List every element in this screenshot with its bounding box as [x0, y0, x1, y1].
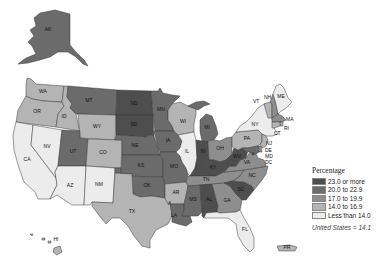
- legend-item: 17.0 to 19.9: [312, 194, 384, 203]
- svg-text:IL: IL: [185, 148, 189, 154]
- svg-text:NH: NH: [264, 94, 272, 100]
- svg-text:MO: MO: [170, 163, 178, 169]
- svg-text:HI: HI: [54, 236, 59, 242]
- svg-text:PA: PA: [244, 135, 251, 141]
- svg-text:NM: NM: [95, 181, 103, 187]
- svg-text:VA: VA: [244, 159, 251, 165]
- svg-text:DC: DC: [265, 159, 273, 165]
- svg-text:TX: TX: [129, 208, 136, 214]
- legend-item: Less than 14.0: [312, 211, 384, 220]
- legend-swatch: [312, 186, 326, 194]
- svg-text:NV: NV: [44, 143, 52, 149]
- state-ak[interactable]: [18, 10, 88, 66]
- svg-text:CO: CO: [99, 149, 107, 155]
- svg-text:GA: GA: [223, 197, 231, 203]
- svg-text:KS: KS: [138, 162, 145, 168]
- legend-swatch: [312, 178, 326, 186]
- svg-text:TN: TN: [203, 176, 210, 182]
- legend-label: 23.0 or more: [328, 178, 365, 185]
- legend-item: 23.0 or more: [312, 177, 384, 186]
- svg-text:NY: NY: [252, 121, 260, 127]
- svg-text:ID: ID: [62, 113, 67, 119]
- svg-text:AL: AL: [206, 196, 212, 202]
- svg-text:AZ: AZ: [67, 182, 73, 188]
- svg-text:OH: OH: [216, 145, 224, 151]
- legend-label: 20.0 to 22.9: [328, 186, 362, 193]
- national-average-note: United States = 14.1: [312, 224, 384, 231]
- legend-swatch: [312, 203, 326, 211]
- svg-text:SD: SD: [131, 121, 138, 127]
- svg-text:CA: CA: [24, 156, 32, 162]
- states-layer: [13, 10, 297, 255]
- svg-text:WV: WV: [233, 153, 242, 159]
- svg-text:IA: IA: [166, 137, 171, 143]
- svg-text:MA: MA: [286, 116, 294, 122]
- svg-text:NJ: NJ: [266, 140, 273, 146]
- legend-swatch: [312, 212, 326, 220]
- svg-text:NE: NE: [132, 142, 140, 148]
- svg-text:CT: CT: [274, 130, 281, 136]
- legend-item: 20.0 to 22.9: [312, 186, 384, 195]
- state-dc[interactable]: [252, 153, 254, 155]
- svg-text:KY: KY: [210, 164, 217, 170]
- svg-text:WI: WI: [180, 118, 186, 124]
- svg-text:MT: MT: [85, 97, 92, 103]
- svg-text:WY: WY: [93, 123, 102, 129]
- svg-text:AK: AK: [45, 26, 52, 32]
- svg-text:OK: OK: [143, 182, 151, 188]
- svg-text:OR: OR: [33, 108, 41, 114]
- legend-swatch: [312, 195, 326, 203]
- svg-text:AR: AR: [173, 189, 180, 195]
- svg-text:MN: MN: [157, 106, 165, 112]
- legend: Percentage 23.0 or more 20.0 to 22.9 17.…: [312, 166, 384, 231]
- state-ct[interactable]: [272, 122, 280, 128]
- svg-text:MI: MI: [204, 124, 210, 130]
- svg-text:WA: WA: [39, 88, 48, 94]
- legend-label: Less than 14.0: [328, 212, 371, 219]
- state-ri[interactable]: [280, 122, 283, 126]
- svg-text:UT: UT: [70, 148, 77, 154]
- legend-title: Percentage: [312, 166, 384, 175]
- legend-item: 14.0 to 16.9: [312, 203, 384, 212]
- svg-text:FL: FL: [242, 226, 248, 232]
- legend-label: 17.0 to 19.9: [328, 195, 362, 202]
- svg-text:LA: LA: [171, 212, 178, 218]
- svg-text:VT: VT: [253, 98, 259, 104]
- legend-label: 14.0 to 16.9: [328, 203, 362, 210]
- svg-text:PR: PR: [284, 244, 291, 250]
- svg-text:ND: ND: [130, 100, 138, 106]
- svg-text:RI: RI: [284, 125, 289, 131]
- svg-text:NC: NC: [248, 172, 256, 178]
- svg-text:IN: IN: [201, 148, 206, 154]
- svg-text:MS: MS: [189, 196, 197, 202]
- svg-text:SC: SC: [238, 186, 245, 192]
- svg-text:ME: ME: [277, 93, 285, 99]
